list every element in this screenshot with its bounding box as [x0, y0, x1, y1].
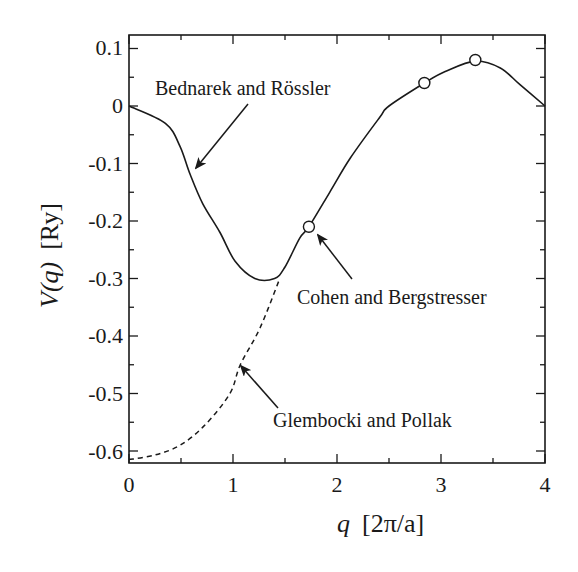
y-tick-label: -0.6 — [88, 439, 123, 464]
y-axis-unit: [Ry] — [35, 203, 64, 250]
y-axis-symbol: V(q) — [35, 262, 64, 308]
glembocki-pollak-curve — [129, 279, 280, 460]
x-tick-label: 2 — [332, 472, 343, 497]
x-axis-label: q[2π/a] — [337, 509, 424, 538]
x-axis-unit: [2π/a] — [362, 509, 424, 538]
y-tick-label: -0.5 — [88, 381, 123, 406]
y-axis-label: V(q)[Ry] — [35, 203, 64, 308]
annotation-cohen: Cohen and Bergstresser — [297, 286, 487, 309]
x-ticks — [129, 35, 545, 463]
y-ticks — [129, 49, 545, 452]
cohen-arrow — [318, 235, 352, 279]
y-tick-labels: 0.1 0 -0.1 -0.2 -0.3 -0.4 -0.5 -0.6 — [88, 35, 123, 464]
x-tick-label: 1 — [228, 472, 239, 497]
data-marker-circle — [303, 221, 314, 232]
x-tick-label: 3 — [436, 472, 447, 497]
data-marker-circle — [419, 78, 430, 89]
data-marker-circle — [470, 55, 481, 66]
bednarek-arrow — [196, 104, 248, 168]
x-tick-labels: 0 1 2 3 4 — [124, 472, 551, 497]
x-tick-label: 4 — [540, 472, 551, 497]
annotation-glembocki: Glembocki and Pollak — [273, 409, 452, 431]
y-tick-label: -0.3 — [88, 266, 123, 291]
y-tick-label: 0 — [112, 93, 123, 118]
x-tick-label: 0 — [124, 472, 135, 497]
annotation-bednarek: Bednarek and Rössler — [155, 77, 331, 99]
glembocki-arrow — [241, 366, 278, 408]
y-tick-label: -0.4 — [88, 323, 123, 348]
y-tick-label: -0.1 — [88, 151, 123, 176]
plot-frame — [129, 35, 545, 463]
y-tick-label: -0.2 — [88, 208, 123, 233]
potential-chart: 0 1 2 3 4 0.1 0 -0.1 -0.2 -0.3 -0.4 -0.5… — [0, 0, 578, 572]
y-tick-label: 0.1 — [96, 35, 124, 60]
x-axis-symbol: q — [337, 509, 350, 538]
